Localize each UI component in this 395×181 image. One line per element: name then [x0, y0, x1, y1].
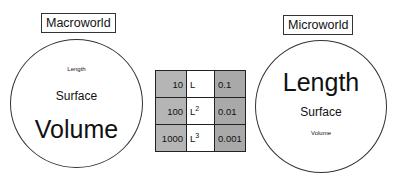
table-row: 10 L 0.1: [156, 71, 246, 98]
table-row: 1000 L3 0.001: [156, 125, 246, 152]
micro-length-label: Length: [256, 68, 386, 97]
macro-volume-label: Volume: [11, 115, 142, 144]
macroworld-circle: Length Surface Volume: [10, 39, 143, 168]
micro-surface-label: Surface: [256, 105, 386, 119]
scale-value-cell: 10: [156, 71, 187, 98]
scale-table: 10 L 0.1 100 L2 0.01 1000 L3 0.001: [155, 70, 246, 152]
power-exponent: 2: [195, 105, 199, 112]
power-cell: L: [187, 71, 215, 98]
power-cell: L3: [187, 125, 215, 152]
micro-volume-label: Volume: [256, 130, 386, 136]
inverse-value-cell: 0.1: [215, 71, 246, 98]
microworld-circle: Length Surface Volume: [255, 40, 387, 173]
table-row: 100 L2 0.01: [156, 98, 246, 125]
inverse-value-cell: 0.01: [215, 98, 246, 125]
scale-value-cell: 100: [156, 98, 187, 125]
macro-length-label: Length: [11, 66, 142, 72]
macro-surface-label: Surface: [11, 89, 142, 103]
power-base: L: [190, 79, 195, 90]
power-cell: L2: [187, 98, 215, 125]
inverse-value-cell: 0.001: [215, 125, 246, 152]
power-exponent: 3: [195, 132, 199, 139]
microworld-title: Microworld: [283, 15, 353, 35]
scale-value-cell: 1000: [156, 125, 187, 152]
macroworld-title: Macroworld: [41, 13, 116, 33]
